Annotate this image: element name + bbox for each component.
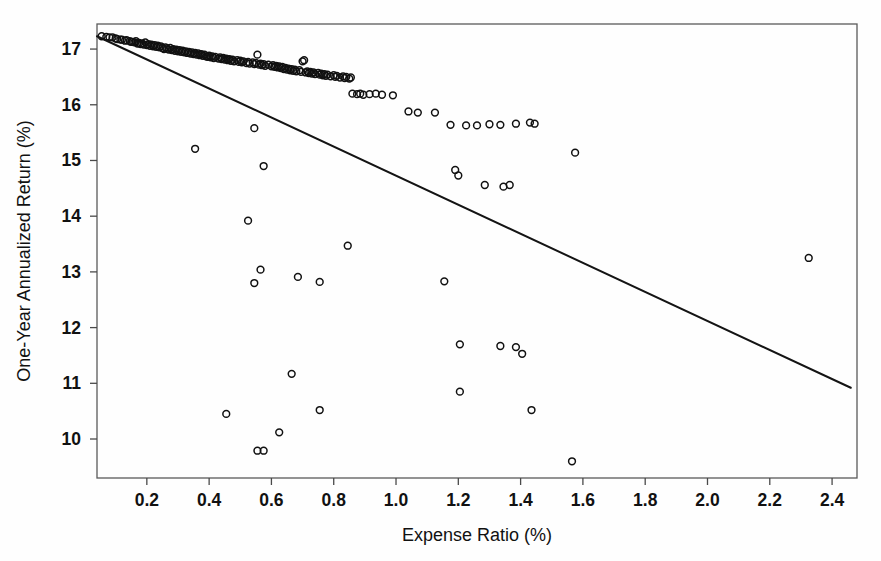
x-axis-title: Expense Ratio (%) bbox=[402, 525, 552, 545]
x-tick-label: 0.6 bbox=[259, 490, 284, 510]
x-tick-label: 1.6 bbox=[571, 490, 596, 510]
x-tick-label: 2.0 bbox=[695, 490, 720, 510]
x-tick-label: 0.4 bbox=[197, 490, 222, 510]
x-tick-label: 1.8 bbox=[633, 490, 658, 510]
y-tick-label: 10 bbox=[62, 429, 82, 449]
y-tick-label: 17 bbox=[62, 39, 81, 59]
x-tick-label: 0.8 bbox=[322, 490, 347, 510]
y-tick-label: 15 bbox=[62, 150, 82, 170]
x-tick-label: 1.0 bbox=[384, 490, 409, 510]
scatter-plot-figure: 0.20.40.60.81.01.21.41.61.82.02.22.4 101… bbox=[0, 0, 881, 561]
x-tick-label: 0.2 bbox=[135, 490, 160, 510]
x-tick-label: 2.4 bbox=[820, 490, 845, 510]
x-tick-label: 2.2 bbox=[758, 490, 783, 510]
x-tick-label: 1.4 bbox=[508, 490, 533, 510]
y-tick-label: 11 bbox=[63, 373, 82, 393]
y-tick-label: 16 bbox=[62, 95, 82, 115]
y-tick-label: 12 bbox=[62, 318, 82, 338]
y-tick-label: 13 bbox=[62, 262, 82, 282]
y-axis-title: One-Year Annualized Return (%) bbox=[14, 120, 34, 381]
y-tick-label: 14 bbox=[62, 206, 82, 226]
plot-canvas: 0.20.40.60.81.01.21.41.61.82.02.22.4 101… bbox=[0, 0, 881, 561]
x-tick-label: 1.2 bbox=[446, 490, 471, 510]
